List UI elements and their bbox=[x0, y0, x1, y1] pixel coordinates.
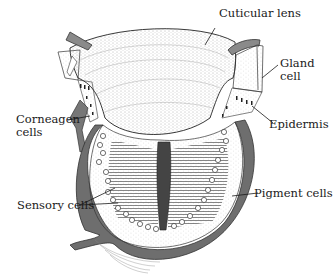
epidermis-right bbox=[222, 88, 262, 118]
label-sensory-cells: Sensory cells bbox=[17, 199, 94, 212]
label-gland-cell-2: cell bbox=[280, 70, 301, 83]
label-corneagen-cells-2: cells bbox=[16, 126, 43, 139]
gland-cell-left bbox=[58, 50, 80, 80]
label-pigment-cells: Pigment cells bbox=[254, 187, 333, 200]
label-cuticular-lens: Cuticular lens bbox=[219, 7, 301, 20]
label-epidermis: Epidermis bbox=[269, 118, 329, 131]
